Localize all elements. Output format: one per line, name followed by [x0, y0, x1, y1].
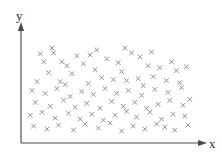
data-point	[83, 122, 88, 127]
data-point	[41, 59, 46, 64]
data-point	[113, 113, 118, 118]
data-point	[111, 77, 116, 82]
data-point	[143, 127, 148, 132]
data-point	[129, 51, 134, 56]
data-point	[28, 113, 33, 118]
data-point	[61, 98, 66, 103]
data-point	[123, 46, 128, 51]
plot-canvas: y x	[0, 0, 222, 157]
scatter-plot-figure: y x	[0, 0, 222, 157]
data-point	[131, 124, 136, 129]
data-point	[104, 56, 109, 61]
data-point	[75, 54, 80, 59]
data-point	[84, 101, 89, 106]
y-axis-arrowhead	[18, 22, 24, 31]
data-point	[162, 125, 167, 130]
data-point	[109, 99, 114, 104]
data-point	[136, 76, 141, 81]
data-point	[33, 100, 38, 105]
data-point	[119, 129, 124, 134]
data-point	[40, 110, 45, 115]
data-point	[66, 111, 71, 116]
data-point	[169, 59, 174, 64]
data-point	[81, 61, 86, 66]
data-point	[119, 69, 124, 74]
data-point	[154, 122, 159, 127]
data-point	[91, 92, 96, 97]
data-point	[50, 46, 55, 51]
data-point	[46, 70, 51, 75]
data-point	[88, 53, 93, 58]
data-point	[86, 81, 91, 86]
data-point	[126, 88, 131, 93]
data-point	[148, 110, 153, 115]
data-point	[60, 59, 65, 64]
data-point	[79, 89, 84, 94]
data-point	[53, 116, 58, 121]
data-point	[93, 67, 98, 72]
data-point	[167, 98, 172, 103]
data-point	[78, 117, 83, 122]
data-point	[68, 94, 73, 99]
data-point	[181, 103, 186, 108]
data-point	[156, 102, 161, 107]
data-point	[30, 88, 35, 93]
data-point	[73, 105, 78, 110]
data-point	[103, 86, 108, 91]
data-point	[182, 114, 187, 119]
data-point	[141, 83, 146, 88]
data-point	[114, 91, 119, 96]
data-point	[187, 97, 192, 102]
data-point	[177, 80, 182, 85]
data-point	[164, 78, 169, 83]
data-point	[56, 123, 61, 128]
data-point	[89, 112, 94, 117]
data-point	[43, 91, 48, 96]
data-point	[166, 90, 171, 95]
y-axis-label: y	[16, 8, 23, 23]
data-point	[121, 104, 126, 109]
data-point	[45, 127, 50, 132]
data-point	[139, 93, 144, 98]
data-point	[149, 50, 154, 55]
data-point	[63, 82, 68, 87]
data-point	[159, 117, 164, 122]
x-axis-arrowhead	[198, 140, 207, 146]
data-point	[158, 65, 163, 70]
data-point	[133, 100, 138, 105]
data-point	[35, 79, 40, 84]
data-point	[151, 74, 156, 79]
x-axis-label: x	[209, 136, 216, 151]
data-point	[172, 128, 177, 133]
data-point	[153, 87, 158, 92]
data-point	[48, 104, 53, 109]
data-point	[134, 115, 139, 120]
data-point-group	[28, 46, 192, 134]
data-point	[124, 78, 129, 83]
data-point	[70, 71, 75, 76]
data-point	[98, 106, 103, 111]
data-point	[186, 123, 191, 128]
data-point	[31, 124, 36, 129]
data-point	[138, 55, 143, 60]
data-point	[184, 64, 189, 69]
data-point	[101, 118, 106, 123]
data-point	[51, 51, 56, 56]
data-point	[108, 121, 113, 126]
data-point	[58, 79, 63, 84]
data-point	[38, 52, 43, 57]
data-point	[65, 63, 70, 68]
data-point	[146, 63, 151, 68]
data-point	[96, 126, 101, 131]
data-point	[124, 109, 129, 114]
data-point	[99, 75, 104, 80]
data-point	[171, 112, 176, 117]
data-point	[174, 68, 179, 73]
data-point	[94, 48, 99, 53]
data-point	[179, 85, 184, 90]
data-point	[71, 128, 76, 133]
data-point	[55, 86, 60, 91]
data-point	[116, 60, 121, 65]
